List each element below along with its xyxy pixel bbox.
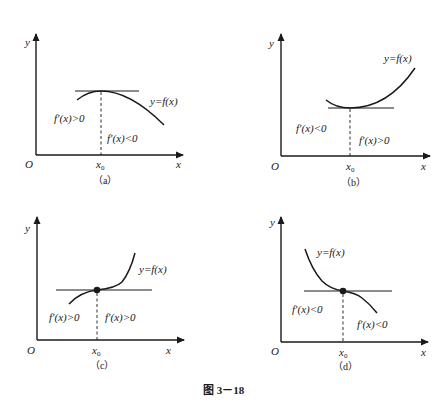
- origin-label: O: [27, 344, 35, 356]
- panel-a: y O x0 x y=f(x) f′(x)>0 f′(x)<0 （a）: [24, 34, 183, 186]
- origin-label: O: [271, 160, 279, 172]
- x-axis-label: x: [420, 160, 426, 172]
- left-derivative-label: f′(x)<0: [296, 122, 327, 135]
- panel-b: y O x0 x y=f(x) f′(x)<0 f′(x)>0 （b）: [268, 34, 430, 188]
- right-derivative-label: f′(x)>0: [359, 134, 390, 147]
- panel-caption: （a）: [93, 175, 117, 186]
- x-axis-label: x: [165, 344, 171, 356]
- inflection-point: [340, 288, 347, 295]
- panel-c: y O x0 x y=f(x) f′(x)>0 f′(x)>0 （c）: [24, 217, 184, 371]
- y-axis-label: y: [24, 36, 30, 48]
- y-axis-label: y: [269, 216, 275, 228]
- curve-label: y=f(x): [149, 95, 178, 108]
- curve-label: y=f(x): [138, 263, 167, 276]
- figure-caption: 图 3－18: [203, 384, 245, 396]
- curve-label: y=f(x): [383, 52, 412, 65]
- x-axis-label: x: [175, 158, 181, 170]
- x0-label: x0: [338, 346, 348, 360]
- right-derivative-label: f′(x)>0: [105, 311, 136, 324]
- origin-label: O: [271, 345, 279, 357]
- panel-caption: （d）: [333, 361, 358, 372]
- panel-caption: （c）: [90, 360, 114, 371]
- y-axis-label: y: [24, 222, 30, 234]
- curve-minimum: [326, 68, 415, 108]
- x0-label: x0: [91, 344, 101, 358]
- panel-d: y O x0 x y=f(x) f′(x)<0 f′(x)<0 （d）: [269, 216, 428, 372]
- inflection-point: [94, 287, 101, 294]
- y-axis-label: y: [268, 37, 274, 49]
- curve-increasing-inflection: [69, 253, 135, 304]
- x0-label: x0: [345, 160, 355, 174]
- origin-label: O: [25, 158, 33, 170]
- figure-canvas: y O x0 x y=f(x) f′(x)>0 f′(x)<0 （a） y O …: [0, 0, 446, 407]
- left-derivative-label: f′(x)>0: [49, 311, 80, 324]
- curve-label: y=f(x): [316, 246, 345, 259]
- left-derivative-label: f′(x)>0: [54, 112, 85, 125]
- x-axis-label: x: [420, 346, 426, 358]
- left-derivative-label: f′(x)<0: [292, 303, 323, 316]
- x0-label: x0: [95, 158, 105, 172]
- panel-caption: （b）: [341, 177, 366, 188]
- right-derivative-label: f′(x)<0: [357, 318, 388, 331]
- right-derivative-label: f′(x)<0: [107, 132, 138, 145]
